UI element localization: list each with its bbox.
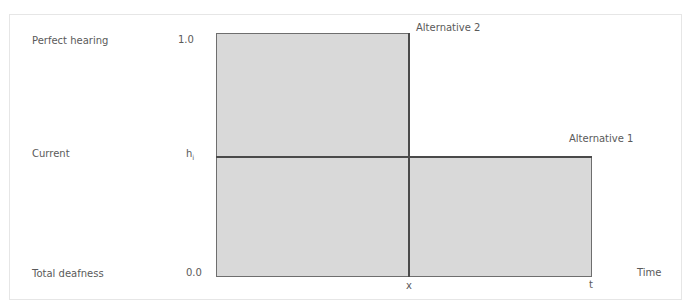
alternative-1-label: Alternative 1 [569,133,633,145]
tick-t: t [589,279,593,291]
label-total-deafness: Total deafness [32,268,104,280]
label-perfect-hearing: Perfect hearing [32,35,108,47]
x-divider-line [408,33,410,277]
value-h-i: hi [186,148,194,164]
value-1-0: 1.0 [178,34,194,46]
time-axis-label: Time [637,267,661,279]
label-current: Current [32,148,70,160]
value-0-0: 0.0 [186,267,202,279]
tick-x: x [406,280,412,292]
value-i: i [192,154,194,162]
current-level-line [216,156,592,158]
alternative-2-area [216,33,410,277]
alternative-2-label: Alternative 2 [416,22,480,34]
alternative-1-area [409,156,592,277]
